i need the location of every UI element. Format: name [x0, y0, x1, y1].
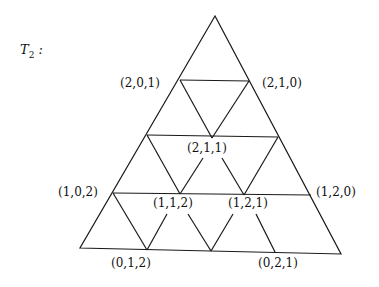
vertex-label-112: (1,1,2): [153, 196, 193, 210]
vertex-label-121: (1,2,1): [228, 196, 268, 210]
vertex-label-120: (1,2,0): [316, 185, 356, 199]
vertex-label-102: (1,0,2): [58, 185, 98, 199]
triangle-diagram: T2 : (2,0,1) (2,1,0) (2,1,1) (1,0,2) (1,…: [0, 0, 379, 287]
vertex-label-012: (0,1,2): [111, 256, 151, 270]
vertex-label-210: (2,1,0): [262, 76, 302, 90]
vertex-label-201: (2,0,1): [120, 76, 160, 90]
vertex-label-021: (0,2,1): [258, 256, 298, 270]
vertex-label-211: (2,1,1): [187, 141, 227, 155]
